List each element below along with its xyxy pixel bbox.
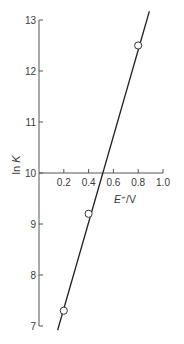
chart-plot: 78910111213 0.20.40.60.81.0 E⦵/Vln K — [0, 0, 184, 344]
y-tick-label: 11 — [26, 117, 37, 128]
x-tick-label: 1.0 — [156, 177, 170, 188]
y-tick-label: 12 — [25, 66, 37, 77]
y-tick-label: 7 — [30, 321, 36, 332]
data-point-marker — [60, 307, 67, 314]
x-tick-label: 0.4 — [82, 177, 96, 188]
fit-line — [58, 11, 150, 330]
x-tick-label: 0.8 — [131, 177, 145, 188]
data-point-marker — [135, 42, 142, 49]
x-axis: 0.20.40.60.81.0 — [39, 169, 170, 188]
x-tick-label: 0.6 — [106, 177, 120, 188]
y-axis-label: ln K — [10, 155, 22, 175]
y-tick-label: 10 — [25, 168, 37, 179]
y-tick-label: 9 — [30, 219, 36, 230]
y-tick-label: 13 — [25, 15, 37, 26]
data-point-marker — [85, 210, 92, 217]
y-tick-label: 8 — [30, 270, 36, 281]
regression-line — [58, 11, 150, 330]
x-tick-label: 0.2 — [57, 177, 71, 188]
x-axis-label: E⦵/V — [114, 193, 136, 205]
